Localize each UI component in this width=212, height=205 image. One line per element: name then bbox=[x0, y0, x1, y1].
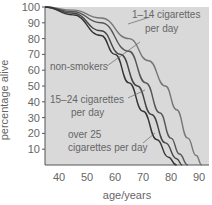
svg-text:80: 80 bbox=[165, 171, 177, 183]
y-axis: 102030405060708090100 bbox=[22, 1, 45, 155]
y-axis-label: percentage alive bbox=[0, 60, 10, 141]
annotation-1-14: 1–14 cigarettes bbox=[132, 9, 200, 20]
x-axis: 405060708090 bbox=[53, 171, 205, 183]
annotation-15-24: 15–24 cigarettes bbox=[50, 94, 124, 105]
svg-text:90: 90 bbox=[28, 17, 40, 29]
svg-text:30: 30 bbox=[28, 112, 40, 124]
svg-text:10: 10 bbox=[28, 143, 40, 155]
svg-text:80: 80 bbox=[28, 33, 40, 45]
svg-text:70: 70 bbox=[137, 171, 149, 183]
annotation-over-25: over 25 bbox=[68, 129, 102, 140]
svg-text:40: 40 bbox=[28, 96, 40, 108]
svg-text:90: 90 bbox=[193, 171, 205, 183]
svg-text:70: 70 bbox=[28, 48, 40, 60]
x-axis-label: age/years bbox=[103, 189, 152, 201]
svg-text:40: 40 bbox=[53, 171, 65, 183]
svg-text:20: 20 bbox=[28, 127, 40, 139]
svg-text:60: 60 bbox=[28, 64, 40, 76]
svg-text:50: 50 bbox=[28, 80, 40, 92]
survival-chart: 102030405060708090100 405060708090 perce… bbox=[0, 0, 212, 205]
svg-text:per day: per day bbox=[145, 23, 178, 34]
svg-text:per day: per day bbox=[71, 107, 104, 118]
annotation-non-smokers: non-smokers bbox=[50, 61, 108, 72]
svg-text:50: 50 bbox=[81, 171, 93, 183]
svg-text:cigarettes per day: cigarettes per day bbox=[68, 142, 148, 153]
svg-text:60: 60 bbox=[109, 171, 121, 183]
svg-text:100: 100 bbox=[22, 1, 40, 13]
